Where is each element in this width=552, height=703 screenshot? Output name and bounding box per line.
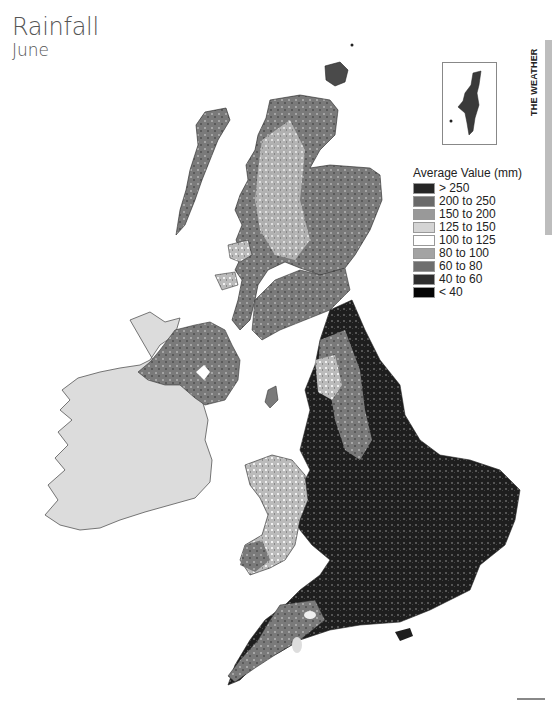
- legend-swatch: [413, 287, 435, 298]
- page-footer-rule: [517, 698, 545, 700]
- legend-swatch: [413, 183, 435, 194]
- isle-of-wight: [395, 628, 413, 641]
- section-tab: [545, 40, 552, 235]
- outer-hebrides: [176, 108, 230, 235]
- legend-swatch: [413, 196, 435, 207]
- legend-item: < 40: [413, 286, 522, 299]
- legend-swatch: [413, 222, 435, 233]
- section-tab-label: THE WEATHER: [529, 46, 543, 116]
- mull: [215, 272, 238, 290]
- legend-label: < 40: [439, 286, 463, 299]
- legend: Average Value (mm) > 250 200 to 250 150 …: [413, 166, 522, 299]
- legend-swatch: [413, 209, 435, 220]
- exmoor-highlight: [292, 637, 302, 653]
- legend-swatch: [413, 274, 435, 285]
- isle-of-man: [265, 386, 278, 408]
- orkney: [325, 62, 348, 86]
- shetland-map: [443, 63, 496, 144]
- fair-isle: [351, 44, 354, 47]
- legend-swatch: [413, 235, 435, 246]
- shetland-inset: [442, 62, 497, 145]
- legend-title: Average Value (mm): [413, 166, 522, 180]
- legend-item: 40 to 60: [413, 273, 522, 286]
- legend-swatch: [413, 261, 435, 272]
- legend-swatch: [413, 248, 435, 259]
- dartmoor-highlight: [304, 611, 316, 619]
